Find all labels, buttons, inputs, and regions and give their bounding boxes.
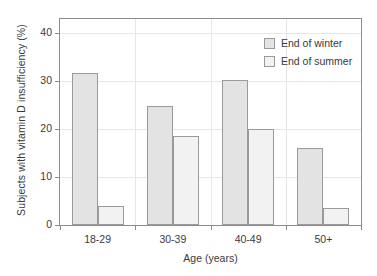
bar: [147, 106, 173, 225]
bar-chart: Subjects with vitamin D insufficiency (%…: [0, 0, 377, 276]
y-tick-label: 30: [12, 75, 52, 86]
y-tick-label: 20: [12, 123, 52, 134]
bar: [98, 206, 124, 225]
legend-item: End of winter: [264, 35, 360, 51]
legend-swatch: [264, 56, 275, 67]
y-tick-mark: [55, 33, 60, 34]
bar: [222, 80, 248, 225]
y-tick-label: 0: [12, 219, 52, 230]
legend-label: End of summer: [281, 55, 352, 67]
y-tick-mark: [55, 81, 60, 82]
x-tick-label: 40-49: [211, 233, 286, 245]
bar: [173, 136, 199, 225]
x-tick-mark: [135, 225, 136, 230]
x-tick-label: 30-39: [135, 233, 210, 245]
y-tick-mark: [55, 129, 60, 130]
x-tick-mark: [361, 225, 362, 230]
legend-swatch: [264, 38, 275, 49]
y-tick-mark: [55, 177, 60, 178]
x-tick-mark: [286, 225, 287, 230]
x-tick-mark: [60, 225, 61, 230]
gridline-vertical: [135, 19, 136, 225]
legend-item: End of summer: [264, 53, 360, 69]
x-tick-label: 18-29: [60, 233, 135, 245]
bar: [248, 129, 274, 225]
y-tick-label: 40: [12, 27, 52, 38]
gridline-vertical: [211, 19, 212, 225]
bar: [323, 208, 349, 225]
bar: [72, 73, 98, 225]
legend-label: End of winter: [281, 37, 342, 49]
x-tick-mark: [211, 225, 212, 230]
x-tick-label: 50+: [286, 233, 361, 245]
bar: [297, 148, 323, 225]
x-axis-title: Age (years): [59, 252, 362, 264]
chart-legend: End of winterEnd of summer: [264, 35, 360, 71]
y-tick-label: 10: [12, 171, 52, 182]
